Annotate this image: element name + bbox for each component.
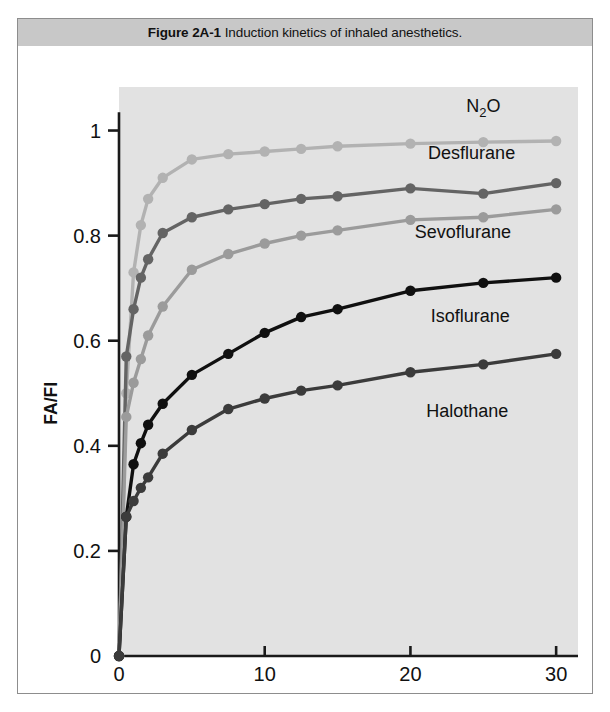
data-point <box>296 385 306 395</box>
y-axis-tick-label: 0.8 <box>73 225 101 247</box>
data-point <box>136 220 146 230</box>
data-point <box>223 249 233 259</box>
data-point <box>296 312 306 322</box>
data-point <box>551 136 561 146</box>
data-point <box>223 404 233 414</box>
data-point <box>136 272 146 282</box>
data-point <box>143 254 153 264</box>
series-label-isoflurane: Isoflurane <box>431 306 510 326</box>
data-point <box>128 304 138 314</box>
data-point <box>405 367 415 377</box>
data-point <box>158 228 168 238</box>
data-point <box>187 370 197 380</box>
data-point <box>121 412 131 422</box>
y-axis-tick-label: 1 <box>90 120 101 142</box>
data-point <box>223 149 233 159</box>
y-axis-tick-label: 0.6 <box>73 330 101 352</box>
data-point <box>114 651 124 661</box>
data-point <box>332 225 342 235</box>
data-point <box>478 212 488 222</box>
y-axis-tick-label: 0 <box>90 645 101 667</box>
chart-plot-stage: 00.20.40.60.810102030Minutes of Administ… <box>18 46 592 693</box>
data-point <box>332 304 342 314</box>
data-point <box>478 278 488 288</box>
data-point <box>143 420 153 430</box>
data-point <box>128 378 138 388</box>
data-point <box>551 349 561 359</box>
data-point <box>551 204 561 214</box>
data-point <box>223 349 233 359</box>
data-point <box>296 144 306 154</box>
data-point <box>143 472 153 482</box>
figure-caption-description: Induction kinetics of inhaled anesthetic… <box>225 25 462 40</box>
data-point <box>128 459 138 469</box>
data-point <box>136 354 146 364</box>
x-axis-tick-label: 10 <box>254 663 276 685</box>
data-point <box>158 173 168 183</box>
data-point <box>260 199 270 209</box>
data-point <box>332 380 342 390</box>
data-point <box>223 204 233 214</box>
data-point <box>296 194 306 204</box>
data-point <box>143 330 153 340</box>
data-point <box>551 272 561 282</box>
series-label-desflurane: Desflurane <box>428 143 515 163</box>
y-axis-tick-label: 0.4 <box>73 435 101 457</box>
data-point <box>405 286 415 296</box>
data-point <box>136 483 146 493</box>
data-point <box>136 438 146 448</box>
data-point <box>187 265 197 275</box>
data-point <box>187 154 197 164</box>
data-point <box>405 183 415 193</box>
figure-caption-bar: Figure 2A-1 Induction kinetics of inhale… <box>18 19 592 46</box>
data-point <box>478 188 488 198</box>
figure-caption-label: Figure 2A-1 <box>148 25 221 40</box>
data-point <box>260 238 270 248</box>
data-point <box>551 178 561 188</box>
y-axis-tick-label: 0.2 <box>73 540 101 562</box>
data-point <box>296 230 306 240</box>
y-axis-title: FA/FI <box>41 382 61 425</box>
data-point <box>143 194 153 204</box>
x-axis-tick-label: 30 <box>545 663 567 685</box>
x-axis-tick-label: 20 <box>399 663 421 685</box>
data-point <box>260 328 270 338</box>
data-point <box>158 399 168 409</box>
data-point <box>260 393 270 403</box>
data-point <box>158 301 168 311</box>
series-label-halothane: Halothane <box>426 401 508 421</box>
data-point <box>332 141 342 151</box>
figure-caption: Figure 2A-1 Induction kinetics of inhale… <box>148 25 462 40</box>
data-point <box>158 448 168 458</box>
data-point <box>121 351 131 361</box>
data-point <box>478 359 488 369</box>
series-label-sevoflurane: Sevoflurane <box>415 222 511 242</box>
data-point <box>187 212 197 222</box>
x-axis-tick-label: 0 <box>113 663 124 685</box>
induction-kinetics-chart: 00.20.40.60.810102030Minutes of Administ… <box>18 46 592 693</box>
data-point <box>332 191 342 201</box>
data-point <box>121 512 131 522</box>
data-point <box>187 425 197 435</box>
plot-background <box>119 87 578 656</box>
data-point <box>405 138 415 148</box>
data-point <box>128 496 138 506</box>
figure-frame: Figure 2A-1 Induction kinetics of inhale… <box>17 18 593 694</box>
data-point <box>260 146 270 156</box>
